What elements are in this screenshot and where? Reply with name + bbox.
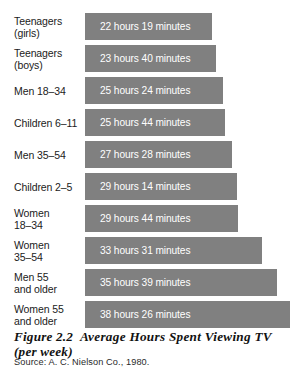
bar-value-label: 23 hours 40 minutes: [85, 53, 190, 64]
category-label-line2: (boys): [14, 59, 82, 71]
chart-row: Teenagers (girls) 22 hours 19 minutes: [0, 11, 296, 43]
category-label-line2: and older: [14, 283, 82, 295]
bar: 25 hours 24 minutes: [85, 77, 223, 104]
chart-row: Women 18–34 29 hours 44 minutes: [0, 203, 296, 235]
category-label-line1: Women 55: [14, 303, 82, 315]
chart-row: Women 55 and older 38 hours 26 minutes: [0, 299, 296, 331]
bar: 29 hours 44 minutes: [85, 205, 238, 232]
bar-value-label: 25 hours 44 minutes: [85, 117, 190, 128]
chart-row: Women 35–54 33 hours 31 minutes: [0, 235, 296, 267]
category-label-line1: Teenagers: [14, 15, 82, 27]
bar: 23 hours 40 minutes: [85, 45, 216, 72]
category-label-line1: Men 55: [14, 271, 82, 283]
bar-value-label: 38 hours 26 minutes: [85, 309, 190, 320]
bar: 29 hours 14 minutes: [85, 173, 237, 200]
chart-row: Men 35–54 27 hours 28 minutes: [0, 139, 296, 171]
category-label: Men 55 and older: [14, 267, 82, 299]
category-label-line2: (girls): [14, 27, 82, 39]
bar: 27 hours 28 minutes: [85, 141, 232, 168]
category-label-line1: Children 2–5: [14, 181, 82, 193]
figure-number: Figure 2.2: [14, 330, 80, 345]
category-label: Women 18–34: [14, 203, 82, 235]
chart-row: Men 18–34 25 hours 24 minutes: [0, 75, 296, 107]
bar: 25 hours 44 minutes: [85, 109, 225, 136]
bar-value-label: 35 hours 39 minutes: [85, 277, 190, 288]
chart-row: Men 55 and older 35 hours 39 minutes: [0, 267, 296, 299]
chart-row: Children 2–5 29 hours 14 minutes: [0, 171, 296, 203]
category-label-line1: Children 6–11: [14, 117, 82, 129]
bar-value-label: 29 hours 14 minutes: [85, 181, 190, 192]
bar-value-label: 22 hours 19 minutes: [85, 21, 190, 32]
category-label: Children 6–11: [14, 107, 82, 139]
category-label-line1: Women: [14, 239, 82, 251]
category-label: Children 2–5: [14, 171, 82, 203]
category-label-line2: 35–54: [14, 251, 82, 263]
category-label-line1: Teenagers: [14, 47, 82, 59]
bar-value-label: 33 hours 31 minutes: [85, 245, 190, 256]
bar-value-label: 25 hours 24 minutes: [85, 85, 190, 96]
bar: 35 hours 39 minutes: [85, 269, 277, 296]
bar-value-label: 29 hours 44 minutes: [85, 213, 190, 224]
chart-row: Children 6–11 25 hours 44 minutes: [0, 107, 296, 139]
bar: 22 hours 19 minutes: [85, 13, 212, 40]
bar: 38 hours 26 minutes: [85, 301, 290, 328]
category-label: Men 18–34: [14, 75, 82, 107]
figure-source: Source: A. C. Nielson Co., 1980.: [14, 357, 149, 367]
bar: 33 hours 31 minutes: [85, 237, 262, 264]
category-label: Teenagers (boys): [14, 43, 82, 75]
category-label: Women 55 and older: [14, 299, 82, 331]
figure-container: Teenagers (girls) 22 hours 19 minutes Te…: [0, 0, 296, 370]
category-label-line1: Women: [14, 207, 82, 219]
category-label: Teenagers (girls): [14, 11, 82, 43]
figure-caption: Figure 2.2Average Hours Spent Viewing TV…: [14, 330, 286, 359]
category-label-line2: and older: [14, 315, 82, 327]
category-label-line2: 18–34: [14, 219, 82, 231]
category-label-line1: Men 35–54: [14, 149, 82, 161]
bar-value-label: 27 hours 28 minutes: [85, 149, 190, 160]
figure-title: Average Hours Spent Viewing TV: [80, 329, 272, 344]
bar-chart: Teenagers (girls) 22 hours 19 minutes Te…: [0, 11, 296, 326]
category-label-line1: Men 18–34: [14, 85, 82, 97]
category-label: Men 35–54: [14, 139, 82, 171]
chart-row: Teenagers (boys) 23 hours 40 minutes: [0, 43, 296, 75]
category-label: Women 35–54: [14, 235, 82, 267]
